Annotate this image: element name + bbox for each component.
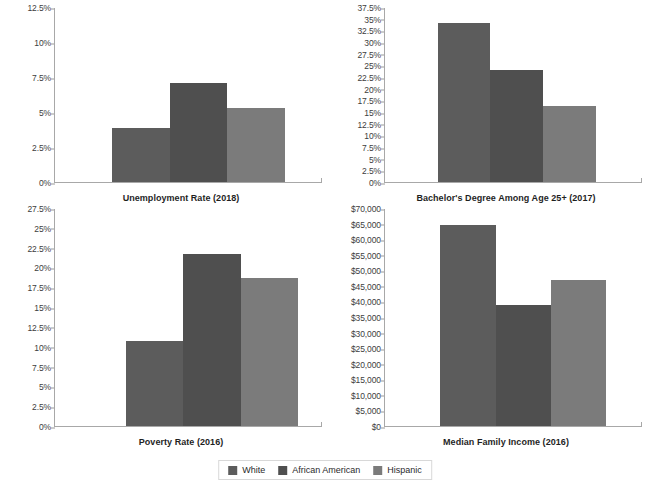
y-tick-label: 12.5% — [357, 120, 381, 129]
plot-area-3 — [384, 209, 642, 427]
chart-title-0: Unemployment Rate (2018) — [40, 193, 322, 203]
y-tick-label: 25% — [364, 62, 381, 71]
y-tick-label: 7.5% — [32, 363, 51, 372]
y-tick-label: 17.5% — [27, 284, 51, 293]
y-tick-label: $70,000 — [351, 205, 381, 214]
y-tick-label: 10% — [34, 343, 51, 352]
legend-swatch-hispanic — [373, 466, 382, 475]
legend: WhiteAfrican AmericanHispanic — [218, 460, 432, 480]
bar-white — [112, 128, 169, 182]
y-tick-label: $50,000 — [351, 267, 381, 276]
y-tick-label: $55,000 — [351, 251, 381, 260]
legend-swatch-african-american — [278, 466, 287, 475]
y-tick-label: 15% — [34, 304, 51, 313]
chart-title-1: Bachelor's Degree Among Age 25+ (2017) — [370, 193, 642, 203]
y-tick-label: $25,000 — [351, 345, 381, 354]
y-tick-label: 20% — [34, 264, 51, 273]
y-tick-label: $30,000 — [351, 329, 381, 338]
y-tick-label: 5% — [39, 383, 51, 392]
y-tick-label: 5% — [369, 155, 381, 164]
y-tick-label: 7.5% — [362, 144, 381, 153]
y-tick-label: 17.5% — [357, 97, 381, 106]
y-tick-label: 2.5% — [362, 167, 381, 176]
y-tick-label: $20,000 — [351, 360, 381, 369]
bar-african-american — [490, 70, 543, 182]
chart-grid: 0%2.5%5%7.5%10%12.5% Unemployment Rate (… — [0, 4, 650, 449]
y-tick-label: 25% — [34, 224, 51, 233]
bar-white — [126, 341, 183, 426]
y-tick-label: 22.5% — [357, 74, 381, 83]
plot-wrap-2: 0%2.5%5%7.5%10%12.5%15%17.5%20%22.5%25%2… — [0, 209, 322, 427]
y-tick-label: 22.5% — [27, 244, 51, 253]
bar-white — [438, 23, 491, 182]
bar-african-american — [183, 254, 240, 426]
bar-hispanic — [551, 280, 606, 426]
bar-group-2 — [55, 209, 322, 426]
y-tick-label: 10% — [364, 132, 381, 141]
y-tick-label: $5,000 — [356, 407, 381, 416]
y-tick-label: 37.5% — [357, 4, 381, 13]
chart-panel-median-family-income: $0$5,000$10,000$15,000$20,000$25,000$30,… — [330, 205, 650, 449]
y-tick-label: $40,000 — [351, 298, 381, 307]
y-tick-label: 27.5% — [357, 50, 381, 59]
y-tick-label: 0% — [39, 179, 51, 188]
y-axis-2: 0%2.5%5%7.5%10%12.5%15%17.5%20%22.5%25%2… — [0, 209, 54, 427]
bar-african-american — [496, 305, 551, 426]
y-tick-label: 12.5% — [27, 4, 51, 13]
bar-hispanic — [543, 106, 596, 182]
legend-item[interactable]: African American — [278, 465, 360, 475]
legend-item-label: Hispanic — [387, 465, 422, 475]
y-tick-label: $35,000 — [351, 314, 381, 323]
bar-hispanic — [227, 108, 284, 182]
figure-root: 0%2.5%5%7.5%10%12.5% Unemployment Rate (… — [0, 0, 650, 494]
bar-group-0 — [55, 8, 322, 182]
y-tick-label: 12.5% — [27, 323, 51, 332]
bar-group-3 — [385, 209, 642, 426]
y-axis-0: 0%2.5%5%7.5%10%12.5% — [0, 8, 54, 183]
plot-wrap-0: 0%2.5%5%7.5%10%12.5% — [0, 8, 322, 183]
y-tick-label: 7.5% — [32, 74, 51, 83]
legend-item-label: White — [242, 465, 265, 475]
y-tick-label: 5% — [39, 109, 51, 118]
y-axis-1: 0%2.5%5%7.5%10%12.5%15%17.5%20%22.5%25%2… — [330, 8, 384, 183]
y-tick-label: 0% — [39, 423, 51, 432]
y-tick-label: 2.5% — [32, 403, 51, 412]
plot-wrap-1: 0%2.5%5%7.5%10%12.5%15%17.5%20%22.5%25%2… — [330, 8, 642, 183]
chart-panel-bachelors-degree: 0%2.5%5%7.5%10%12.5%15%17.5%20%22.5%25%2… — [330, 4, 650, 205]
legend-item[interactable]: Hispanic — [373, 465, 422, 475]
chart-title-3: Median Family Income (2016) — [370, 437, 642, 447]
chart-panel-poverty-rate: 0%2.5%5%7.5%10%12.5%15%17.5%20%22.5%25%2… — [0, 205, 330, 449]
y-tick-label: 10% — [34, 39, 51, 48]
chart-panel-unemployment-rate: 0%2.5%5%7.5%10%12.5% Unemployment Rate (… — [0, 4, 330, 205]
bar-white — [440, 225, 495, 426]
bar-group-1 — [385, 8, 642, 182]
y-tick-label: 27.5% — [27, 205, 51, 214]
y-tick-label: $60,000 — [351, 236, 381, 245]
y-tick-label: 32.5% — [357, 27, 381, 36]
legend-swatch-white — [228, 466, 237, 475]
bar-hispanic — [241, 278, 298, 426]
chart-title-2: Poverty Rate (2016) — [40, 437, 322, 447]
y-tick-label: $10,000 — [351, 391, 381, 400]
y-tick-label: $45,000 — [351, 282, 381, 291]
plot-area-0 — [54, 8, 322, 183]
y-tick-label: 2.5% — [32, 144, 51, 153]
legend-item-label: African American — [292, 465, 360, 475]
y-tick-label: 15% — [364, 109, 381, 118]
y-tick-label: $0 — [372, 423, 381, 432]
plot-wrap-3: $0$5,000$10,000$15,000$20,000$25,000$30,… — [330, 209, 642, 427]
y-tick-label: 20% — [364, 85, 381, 94]
y-tick-label: 35% — [364, 15, 381, 24]
y-tick-label: 30% — [364, 39, 381, 48]
plot-area-2 — [54, 209, 322, 427]
y-tick-label: $65,000 — [351, 220, 381, 229]
bar-african-american — [170, 83, 227, 182]
y-tick-label: $15,000 — [351, 376, 381, 385]
plot-area-1 — [384, 8, 642, 183]
y-axis-3: $0$5,000$10,000$15,000$20,000$25,000$30,… — [330, 209, 384, 427]
y-tick-label: 0% — [369, 179, 381, 188]
legend-item[interactable]: White — [228, 465, 265, 475]
